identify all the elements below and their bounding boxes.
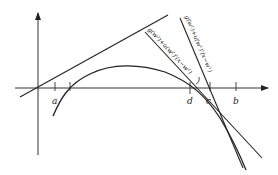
upper-tangent-line (20, 15, 168, 97)
tick-label-c: c (206, 96, 211, 106)
tick-label-d: d (187, 96, 193, 106)
tangent-line-w1 (180, 18, 243, 168)
function-curve (53, 66, 246, 170)
diagram-canvas: a d c b g(w¹)+u(w¹)'(x−w¹) g(w²)+u(w²)'(… (0, 0, 278, 175)
tick-label-a: a (52, 96, 57, 106)
w2-arc-marker (196, 77, 199, 84)
tick-label-b: b (233, 96, 239, 106)
